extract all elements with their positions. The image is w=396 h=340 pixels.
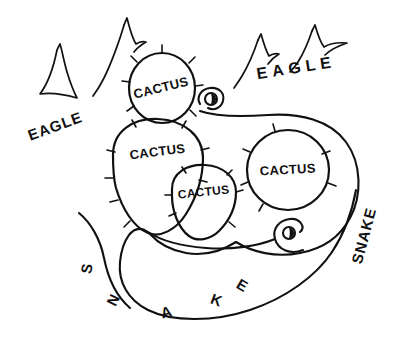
snake-head-upper-eye (205, 93, 217, 105)
illustration-svg: CACTUS CACTUS (0, 0, 396, 340)
cactus-top-label: CACTUS (132, 74, 190, 102)
drawing-canvas: CACTUS CACTUS (0, 0, 396, 340)
cactus-left-spines (105, 120, 209, 227)
cactus-center: CACTUS (165, 165, 243, 240)
cactus-top: CACTUS (122, 45, 203, 123)
snake-letter-a: A (159, 302, 175, 321)
snake-letter-k: K (208, 290, 225, 310)
cactus-right-label: CACTUS (259, 161, 316, 179)
snake-letter-s: S (77, 261, 96, 275)
eagle-bird-1 (40, 44, 77, 98)
eagle-left-label: EAGLE (26, 108, 85, 143)
eagle-right-label: EAGLE (255, 53, 337, 82)
cactus-left-label: CACTUS (129, 141, 186, 163)
cactus-right: CACTUS (241, 124, 336, 211)
eagle-bird-2 (93, 18, 146, 96)
cactus-left: CACTUS (105, 119, 209, 235)
snake-letter-e: E (234, 275, 252, 295)
cactus-center-label: CACTUS (177, 182, 230, 201)
snake-head-lower-eye (283, 227, 295, 239)
snake-letter-n: N (103, 291, 123, 309)
